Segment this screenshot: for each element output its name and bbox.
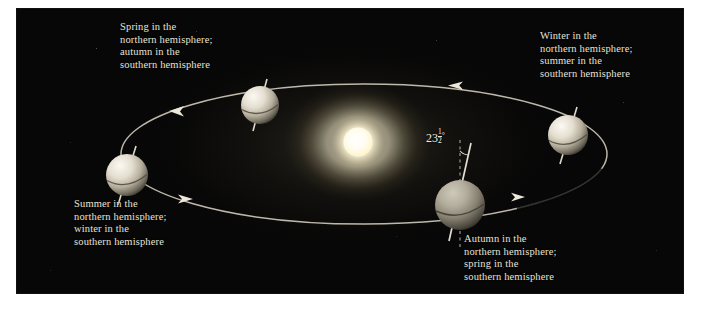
orbit-arrow-upper-left — [169, 106, 184, 117]
space-illustration-panel: 2312° Spring in the northern hemisphere;… — [17, 9, 683, 293]
earth-autumn-globe — [435, 180, 485, 230]
degree-symbol: ° — [442, 131, 445, 140]
orbit-arrow-lower-right — [511, 193, 525, 202]
earth-summer-group — [106, 146, 148, 205]
earth-spring-group — [241, 79, 279, 131]
tilt-angle-arc — [460, 151, 469, 155]
earth-summer-globe — [106, 154, 148, 196]
caption-spring: Spring in the northern hemisphere; autum… — [120, 21, 265, 71]
earth-spring-globe — [241, 86, 279, 124]
earth-winter-group — [548, 107, 588, 164]
orbit-fade-mask — [517, 169, 602, 209]
caption-summer: Summer in the northern hemisphere; winte… — [74, 198, 229, 248]
seasons-figure: 2312° Spring in the northern hemisphere;… — [0, 0, 701, 310]
caption-autumn: Autumn in the northern hemisphere; sprin… — [464, 233, 614, 283]
tilt-whole: 23 — [426, 131, 438, 145]
tilt-angle-label: 2312° — [426, 128, 445, 144]
sun-disc — [344, 128, 373, 157]
earth-winter-globe — [548, 115, 588, 155]
caption-winter: Winter in the northern hemisphere; summe… — [540, 30, 683, 80]
sun-group — [284, 82, 432, 202]
